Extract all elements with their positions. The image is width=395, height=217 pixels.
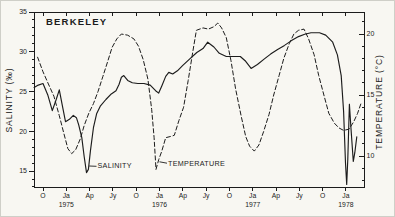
left-tick-label: 25 xyxy=(19,88,27,95)
x-tick-label: O xyxy=(134,192,139,199)
x-tick-label: O xyxy=(40,192,45,199)
x-tick-label: Jy xyxy=(203,192,210,200)
x-year-label: 1977 xyxy=(245,201,260,208)
x-tick-label: Ap xyxy=(85,192,94,200)
right-tick-label: 10 xyxy=(367,152,375,159)
chart-title: BERKELEY xyxy=(46,16,107,27)
x-tick-label: Ja xyxy=(342,192,349,199)
x-tick-label: Ja xyxy=(156,192,163,199)
right-axis-title: TEMPERATURE (°C) xyxy=(374,54,384,150)
x-tick-label: Jy xyxy=(296,192,303,200)
oceanographic-chart-figure: OJaApJyOJaApJyOJaApJyOJa1975197619771978… xyxy=(0,0,395,217)
x-year-label: 1975 xyxy=(59,201,74,208)
right-tick-label: 20 xyxy=(367,30,375,37)
x-year-label: 1978 xyxy=(338,201,353,208)
salinity-series-label: SALINITY xyxy=(98,161,132,170)
x-tick-label: O xyxy=(227,192,232,199)
generated-chart-layer: OJaApJyOJaApJyOJaApJyOJa1975197619771978… xyxy=(19,8,374,207)
left-axis-title: SALINITY (‰) xyxy=(4,68,14,133)
x-tick-label: Ap xyxy=(272,192,281,200)
x-tick-label: Jy xyxy=(110,192,117,200)
temperature-series-label: TEMPERATURE xyxy=(168,159,225,168)
left-tick-label: 30 xyxy=(19,48,27,55)
series-line-temperature xyxy=(38,23,362,169)
x-tick-label: Ja xyxy=(249,192,256,199)
x-tick-label: Ja xyxy=(63,192,70,199)
tick-label-layer: OJaApJyOJaApJyOJaApJyOJa1975197619771978… xyxy=(19,8,374,207)
x-tick-label: Ap xyxy=(179,192,188,200)
x-tick-label: O xyxy=(320,192,325,199)
temperature-label-leader xyxy=(160,162,168,163)
left-tick-label: 35 xyxy=(19,8,27,15)
left-tick-label: 20 xyxy=(19,128,27,135)
left-tick-label: 15 xyxy=(19,167,27,174)
chart-canvas: OJaApJyOJaApJyOJaApJyOJa1975197619771978… xyxy=(1,1,395,217)
x-year-label: 1976 xyxy=(152,201,167,208)
